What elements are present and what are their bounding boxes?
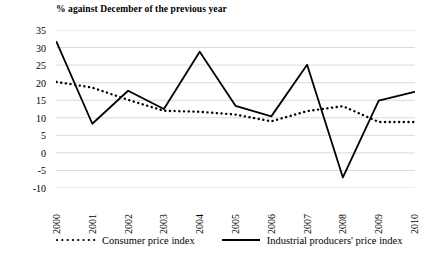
x-axis-tick: 2009 xyxy=(372,194,386,234)
solid-line-swatch-icon xyxy=(221,236,261,244)
y-axis-tick-label: -5 xyxy=(38,165,46,176)
x-axis-tick: 2003 xyxy=(157,194,171,234)
y-axis-tick-label: 5 xyxy=(41,130,46,141)
series-layer xyxy=(57,42,415,178)
x-axis-tick: 2007 xyxy=(300,194,314,234)
y-axis-tick-label: 25 xyxy=(36,60,46,71)
legend-entry-industrial-producers-price-index: Industrial producers' price index xyxy=(221,235,403,246)
gridlines xyxy=(56,30,415,188)
legend-label-industrial-producers-price-index: Industrial producers' price index xyxy=(267,235,403,246)
series-line-0 xyxy=(57,82,415,122)
y-axis-tick-label: 0 xyxy=(41,147,46,158)
x-axis-tick: 2005 xyxy=(229,194,243,234)
y-axis-tick-label: 30 xyxy=(36,42,46,53)
chart-legend: Consumer price index Industrial producer… xyxy=(56,231,436,249)
y-axis-tick-label: 15 xyxy=(36,95,46,106)
chart-screenshot: % against December of the previous year … xyxy=(0,0,448,255)
x-axis-tick: 2010 xyxy=(408,194,422,234)
x-axis-tick: 2004 xyxy=(193,194,207,234)
x-axis-tick: 2001 xyxy=(85,194,99,234)
y-axis: 35302520151050-5-10 xyxy=(0,24,50,194)
plot-svg xyxy=(56,30,415,188)
x-axis-tick: 2008 xyxy=(336,194,350,234)
legend-label-consumer-price-index: Consumer price index xyxy=(102,235,195,246)
plot-area xyxy=(56,30,415,188)
series-line-1 xyxy=(57,42,415,178)
dotted-line-swatch-icon xyxy=(56,236,96,244)
x-axis: 2000200120022003200420052006200720082009… xyxy=(56,190,415,236)
chart-title: % against December of the previous year xyxy=(56,4,227,14)
y-axis-tick-label: 20 xyxy=(36,77,46,88)
legend-entry-consumer-price-index: Consumer price index xyxy=(56,235,195,246)
x-axis-tick: 2000 xyxy=(50,194,64,234)
y-axis-tick-label: 10 xyxy=(36,112,46,123)
y-axis-tick-label: 35 xyxy=(36,25,46,36)
x-axis-tick: 2006 xyxy=(264,194,278,234)
x-axis-tick: 2002 xyxy=(121,194,135,234)
y-axis-tick-label: -10 xyxy=(33,183,46,194)
